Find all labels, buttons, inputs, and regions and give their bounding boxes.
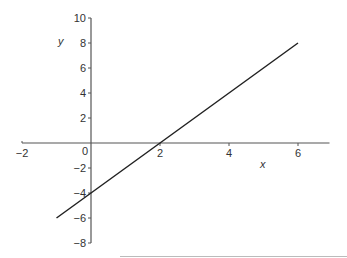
y-tick-label: −8 [73, 237, 86, 249]
line-chart: −20246108642−2−4−6−8 x y [0, 0, 347, 258]
x-tick-label: −2 [16, 147, 29, 159]
y-tick-label: −6 [73, 212, 86, 224]
y-tick-label: 8 [80, 37, 86, 49]
series-lines [57, 43, 299, 218]
x-tick-label: 2 [157, 147, 163, 159]
y-tick-label: 6 [80, 62, 86, 74]
y-axis-label: y [57, 35, 65, 47]
x-axis-label: x [259, 158, 266, 170]
x-tick-label: 4 [226, 147, 232, 159]
ticks: −20246108642−2−4−6−8 [16, 12, 301, 249]
bottom-rule [120, 256, 347, 257]
y-tick-label: 10 [74, 12, 86, 24]
x-tick-label: 6 [295, 147, 301, 159]
y-tick-label: 4 [80, 87, 86, 99]
data-line [57, 43, 299, 218]
y-tick-label: 2 [80, 112, 86, 124]
x-tick-label: 0 [82, 145, 88, 157]
y-tick-label: −2 [73, 162, 86, 174]
